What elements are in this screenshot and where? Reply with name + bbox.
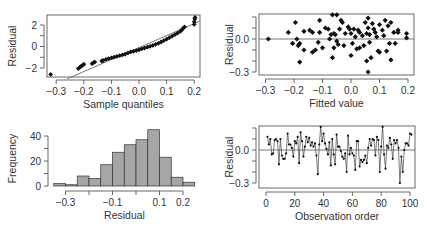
y-tick-label: −0.3 — [229, 178, 249, 189]
x-tick-label: −0.1 — [313, 85, 333, 96]
x-tick-label: −0.3 — [46, 86, 66, 97]
data-point — [317, 18, 322, 23]
data-point — [289, 143, 291, 145]
data-point — [299, 131, 301, 133]
data-point — [363, 20, 368, 25]
data-point — [367, 147, 369, 149]
x-tick-label: 0.2 — [176, 197, 190, 208]
data-point — [381, 33, 386, 38]
data-point — [314, 142, 316, 144]
y-tick-label: 40 — [30, 131, 42, 142]
data-point — [380, 146, 382, 148]
data-point — [343, 158, 345, 160]
plot-frame — [47, 15, 200, 77]
x-tick-label: 0.1 — [153, 197, 167, 208]
x-tick-label: 0.1 — [160, 86, 174, 97]
y-tick-label: 0 — [31, 41, 37, 52]
data-point — [315, 154, 317, 156]
x-tick-label: 100 — [402, 198, 419, 209]
y-tick-label: 20 — [30, 156, 42, 167]
x-tick-label: −0.2 — [74, 86, 94, 97]
data-point — [370, 145, 372, 147]
data-point — [406, 142, 408, 144]
histogram-bar — [136, 140, 148, 186]
data-point — [369, 138, 371, 140]
data-point — [383, 18, 388, 23]
histogram-bar — [89, 179, 101, 187]
data-point — [361, 43, 366, 48]
data-point — [366, 25, 371, 30]
data-point — [295, 142, 297, 144]
y-axis-label: Residual — [223, 137, 235, 178]
x-tick-label: −0.2 — [284, 85, 304, 96]
data-point — [392, 158, 394, 160]
histogram-bar — [54, 184, 66, 187]
x-tick-label: 0 — [263, 198, 269, 209]
data-point — [393, 139, 395, 141]
data-point — [317, 30, 322, 35]
data-point — [387, 147, 389, 149]
x-tick-label: 20 — [289, 198, 301, 209]
data-point — [395, 142, 397, 144]
data-point — [404, 35, 409, 40]
data-point — [321, 140, 323, 142]
histogram-bar — [77, 176, 89, 186]
data-point — [331, 45, 336, 50]
data-point — [331, 138, 333, 140]
data-point — [316, 40, 321, 45]
data-point — [366, 16, 371, 21]
histogram-bar — [101, 165, 113, 186]
y-axis-label: Frequency — [6, 133, 18, 183]
data-point — [330, 164, 332, 166]
data-point — [384, 49, 389, 54]
data-point — [393, 41, 398, 46]
data-point — [287, 132, 289, 134]
data-point — [347, 135, 349, 137]
data-point — [293, 20, 298, 25]
histogram-bar — [124, 145, 136, 186]
data-point — [327, 153, 329, 155]
x-tick-label: −0.3 — [256, 85, 276, 96]
y-tick-label: −2 — [26, 63, 38, 74]
x-axis-label: Observation order — [295, 210, 380, 222]
data-point — [350, 147, 352, 149]
data-point — [403, 149, 405, 151]
data-point — [360, 159, 362, 161]
data-point — [318, 143, 320, 145]
data-point — [379, 171, 381, 173]
data-point — [311, 141, 313, 143]
data-point — [310, 145, 312, 147]
data-point — [377, 22, 382, 27]
data-point — [376, 136, 378, 138]
histogram-bar — [66, 185, 78, 186]
data-point — [328, 141, 330, 143]
y-tick-label: 2 — [31, 20, 37, 31]
data-point — [290, 41, 295, 46]
x-axis-label: Sample quantiles — [83, 98, 164, 110]
x-tick-label: 80 — [376, 198, 388, 209]
data-point — [284, 158, 286, 160]
data-point — [410, 134, 412, 136]
residual-series-line — [267, 127, 411, 183]
data-point — [397, 147, 399, 149]
data-point — [317, 173, 319, 175]
y-tick-label: −0.3 — [229, 67, 249, 78]
data-point — [272, 152, 274, 154]
residual-histogram: 02040−0.3−0.10.10.2ResidualFrequency — [6, 130, 195, 221]
data-point — [338, 146, 340, 148]
data-point — [390, 143, 392, 145]
data-point — [305, 136, 307, 138]
data-point — [307, 141, 309, 143]
data-point — [301, 29, 306, 34]
data-point — [320, 45, 325, 50]
data-point — [396, 139, 398, 141]
data-point — [286, 30, 291, 35]
data-point — [278, 163, 280, 165]
data-point — [323, 132, 325, 134]
data-point — [361, 161, 363, 163]
histogram-bar — [183, 182, 195, 186]
data-point — [325, 148, 327, 150]
data-point — [269, 138, 271, 140]
data-point — [301, 140, 303, 142]
data-point — [367, 40, 372, 45]
